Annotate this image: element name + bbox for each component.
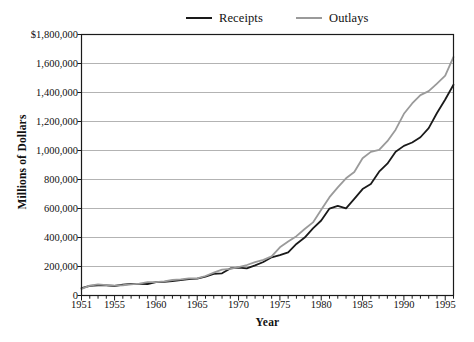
x-axis-tick-label: 1995 xyxy=(425,299,465,310)
gridlines xyxy=(82,64,454,267)
y-axis-tick-labels: 0200,000400,000600,000800,0001,000,0001,… xyxy=(0,0,78,342)
legend-label-receipts: Receipts xyxy=(219,11,263,26)
x-axis-tick-label: 1985 xyxy=(343,299,383,310)
legend-item-outlays: Outlays xyxy=(296,8,369,28)
x-axis-tick-label: 1975 xyxy=(260,299,300,310)
legend-label-outlays: Outlays xyxy=(329,11,369,26)
series-line-outlays xyxy=(82,57,454,289)
x-axis-tick-label: 1990 xyxy=(384,299,424,310)
y-axis-tick-label: 1,000,000 xyxy=(2,146,78,156)
y-axis-tick-label: 1,400,000 xyxy=(2,88,78,98)
plot-frame xyxy=(82,35,454,296)
legend-item-receipts: Receipts xyxy=(186,8,263,28)
x-axis-tick-label: 1980 xyxy=(301,299,341,310)
legend-line-swatch-outlays-icon xyxy=(296,17,322,19)
y-axis-tick-label: 200,000 xyxy=(2,262,78,272)
y-axis-tick-label: 800,000 xyxy=(2,175,78,185)
x-axis-tick-label: 1965 xyxy=(177,299,217,310)
y-axis-tick-label: 1,600,000 xyxy=(2,59,78,69)
line-chart: Receipts Outlays Millions of Dollars 020… xyxy=(0,0,474,342)
legend-line-swatch-receipts-icon xyxy=(186,17,212,19)
y-axis-tick-label: 1,200,000 xyxy=(2,117,78,127)
y-axis-tick-label: 600,000 xyxy=(2,204,78,214)
x-axis-title: Year xyxy=(81,316,454,328)
y-axis-tick-label: $1,800,000 xyxy=(2,30,78,40)
data-series-group xyxy=(82,57,454,289)
x-axis-tick-label: 1955 xyxy=(95,299,135,310)
x-axis-tick-label: 1960 xyxy=(136,299,176,310)
y-axis-tick-label: 400,000 xyxy=(2,233,78,243)
x-axis-tick-label: 1970 xyxy=(219,299,259,310)
